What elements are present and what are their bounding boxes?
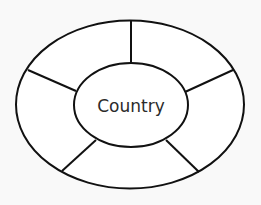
center-label: Country — [97, 96, 165, 116]
nested-ellipse-diagram: Country — [0, 0, 261, 205]
